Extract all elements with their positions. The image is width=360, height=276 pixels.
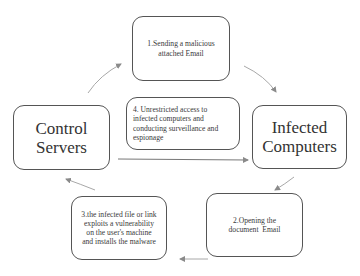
- node-step3-label: 3.the infected file or link exploits a v…: [72, 210, 166, 247]
- arrow-control-to-step1: [88, 64, 121, 93]
- node-step4-unrestricted-access: 4. Unrestricted access to infected compu…: [126, 97, 240, 150]
- node-control-servers: Control Servers: [13, 105, 110, 170]
- node-step1-label: 1.Sending a malicious attached Email: [133, 39, 229, 57]
- arrow-step1-to-infected: [244, 66, 276, 92]
- node-infected-computers: Infected Computers: [252, 105, 347, 169]
- node-infected-line1: Infected: [262, 118, 337, 137]
- node-step1-sending-email: 1.Sending a malicious attached Email: [132, 16, 230, 81]
- node-control-line2: Servers: [36, 138, 88, 157]
- node-control-line1: Control: [36, 119, 88, 138]
- arrow-infected-to-step2: [275, 177, 294, 190]
- arrow-control-to-infected: [118, 159, 248, 160]
- node-step2-label: 2.Opening the document Email: [207, 216, 302, 234]
- arrow-step3-to-control: [66, 179, 95, 190]
- node-step2-opening-email: 2.Opening the document Email: [206, 193, 303, 257]
- node-step3-exploit: 3.the infected file or link exploits a v…: [71, 196, 167, 260]
- node-infected-line2: Computers: [262, 137, 337, 156]
- node-step4-label: 4. Unrestricted access to infected compu…: [133, 105, 239, 142]
